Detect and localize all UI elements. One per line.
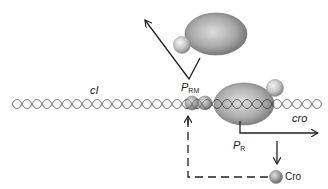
gene-label-ci: cI	[90, 85, 99, 96]
ci-repressor-pr	[267, 80, 284, 97]
promoter-label-pr: PR	[233, 140, 245, 152]
dna-helix	[12, 100, 322, 109]
rna-polymerase-upper	[185, 13, 247, 55]
promoter-label-prm: PRM	[181, 82, 199, 94]
gene-label-cro: cro	[292, 113, 307, 124]
rna-polymerase-pr	[214, 83, 274, 125]
cro-feedback-line	[188, 116, 268, 177]
cro-protein	[270, 171, 283, 184]
promoter-prm-sub: RM	[188, 87, 199, 94]
promoter-pr-sub: R	[240, 145, 245, 152]
protein-label-cro: Cro	[285, 172, 301, 182]
diagram-canvas	[0, 0, 328, 189]
cro-bound-prm-1	[185, 96, 199, 110]
ci-repressor-upper	[174, 37, 191, 54]
lambda-switch-diagram: cI cro PRM PR Cro	[0, 0, 328, 189]
